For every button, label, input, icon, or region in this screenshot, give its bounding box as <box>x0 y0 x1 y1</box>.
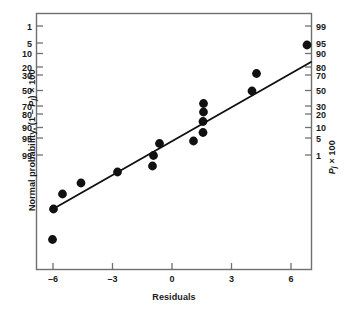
data-point <box>48 235 57 244</box>
y-axis-right-title: Pj × 100 <box>327 102 338 212</box>
data-point <box>199 117 208 126</box>
data-point <box>113 168 122 177</box>
data-points <box>48 41 311 244</box>
y-axis-right-title-sub: j <box>330 166 337 168</box>
ytick-right-70: 70 <box>316 71 326 81</box>
data-point <box>149 151 158 160</box>
ytick-right-10: 10 <box>316 123 326 133</box>
plot-canvas: 1 5 10 20 30 50 70 80 90 95 99 99 95 90 … <box>0 0 362 309</box>
data-point <box>148 162 157 171</box>
ytick-right-50: 50 <box>316 86 326 96</box>
y-axis-left-title-var: P <box>27 101 37 107</box>
x-axis-ticks <box>53 263 291 270</box>
y-axis-left-title-prefix: Normal probability, (1 – <box>27 107 37 211</box>
ytick-right-99: 99 <box>316 22 326 32</box>
xtick-0: 0 <box>169 274 174 284</box>
y-axis-left-title-suffix: ) × 100 <box>27 70 37 99</box>
plot-frame <box>37 14 312 270</box>
data-point <box>58 190 67 199</box>
data-point <box>248 87 257 96</box>
ytick-right-5: 5 <box>316 134 321 144</box>
ytick-right-1: 1 <box>316 151 321 161</box>
ytick-left-1: 1 <box>27 22 32 32</box>
y-axis-left-title-sub: j <box>30 98 37 100</box>
x-axis-labels: –6 –3 0 3 6 <box>48 274 294 284</box>
ytick-right-95: 95 <box>316 39 326 49</box>
ytick-right-20: 20 <box>316 110 326 120</box>
data-point <box>252 69 261 78</box>
data-point <box>155 139 164 148</box>
x-axis-title: Residuals <box>36 292 312 302</box>
data-point <box>199 108 208 117</box>
y-axis-left-title: Normal probability, (1 – Pj) × 100 <box>27 55 38 225</box>
xtick-3: 3 <box>229 274 234 284</box>
data-point <box>199 128 208 137</box>
data-point <box>303 41 312 50</box>
ytick-left-5: 5 <box>27 39 32 49</box>
y-axis-right-title-var: P <box>327 168 337 174</box>
data-point <box>199 99 208 108</box>
fit-line <box>53 62 311 209</box>
xtick-6: 6 <box>288 274 293 284</box>
y-axis-right-labels: 99 95 90 80 70 50 30 20 10 5 1 <box>316 22 326 161</box>
data-point <box>189 137 198 146</box>
xtick-neg6: –6 <box>48 274 58 284</box>
normal-probability-plot-figure: 1 5 10 20 30 50 70 80 90 95 99 99 95 90 … <box>0 0 362 309</box>
ytick-right-90: 90 <box>316 49 326 59</box>
data-point <box>77 179 86 188</box>
xtick-neg3: –3 <box>107 274 117 284</box>
data-point <box>49 205 58 214</box>
y-axis-left-ticks <box>37 26 44 155</box>
y-axis-right-title-suffix: × 100 <box>327 140 337 166</box>
